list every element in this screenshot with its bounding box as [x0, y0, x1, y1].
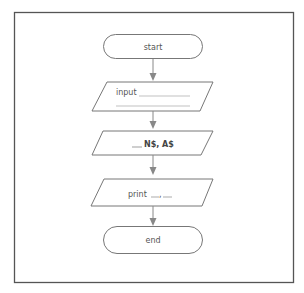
print-label: print — [128, 190, 147, 199]
arrow-start-to-input — [150, 59, 157, 81]
end-node: end — [104, 227, 203, 254]
process-vars-label: N$, A$ — [144, 140, 174, 149]
arrow-process-to-output — [150, 155, 157, 175]
end-label: end — [145, 236, 160, 245]
start-label: start — [144, 43, 163, 52]
input-label: input — [116, 88, 137, 97]
arrow-input-to-process — [150, 111, 157, 129]
print-comma: , — [159, 190, 162, 199]
arrow-output-to-end — [150, 206, 157, 226]
flowchart-diagram: start input N$, A$ print , — [0, 0, 304, 293]
input-node: input — [92, 82, 213, 111]
output-node: print , — [91, 179, 213, 206]
process-node: N$, A$ — [92, 131, 213, 155]
start-node: start — [104, 35, 203, 59]
